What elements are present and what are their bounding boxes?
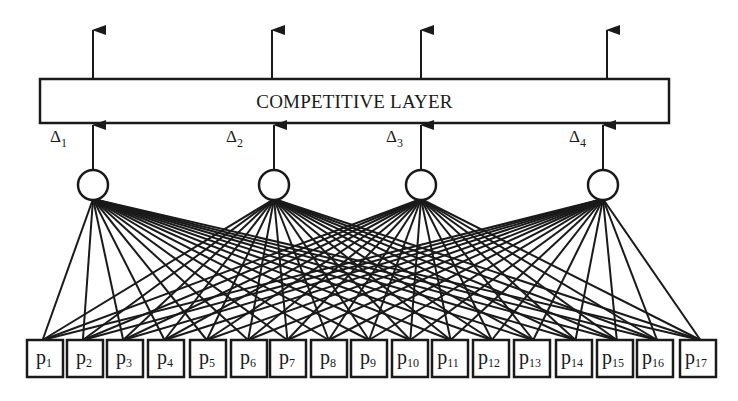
input-node-p13: p13 [514,340,550,377]
input-node-p3: p3 [107,340,143,377]
delta-label-2: Δ2 [226,127,243,150]
neuron-circle [588,170,618,200]
input-nodes: p1p2p3p4p5p6p7p8p9p10p11p12p13p14p15p16p… [27,340,716,377]
input-node-p11: p11 [432,340,468,377]
delta-label-4: Δ4 [569,127,586,150]
input-node-p12: p12 [473,340,509,377]
input-node-p9: p9 [351,340,387,377]
input-node-p15: p15 [597,340,633,377]
delta-label-1: Δ1 [50,127,67,150]
input-node-p7: p7 [270,340,306,377]
hidden-node-3: Δ3 [386,125,436,200]
input-node-p2: p2 [67,340,103,377]
competitive-layer: COMPETITIVE LAYER [40,79,669,123]
input-node-p8: p8 [311,340,347,377]
connection-n2-p7 [274,199,287,340]
input-node-p16: p16 [637,340,673,377]
neuron-circle [259,170,289,200]
neuron-circle [406,170,436,200]
input-node-p1: p1 [27,340,63,377]
input-node-p6: p6 [231,340,267,377]
connection-n1-p1 [43,199,93,340]
hidden-node-4: Δ4 [569,125,618,200]
hidden-nodes: Δ1Δ2Δ3Δ4 [50,125,618,200]
connection-n4-p17 [603,199,700,340]
competitive-network-diagram: COMPETITIVE LAYER Δ1Δ2Δ3Δ4 p1p2p3p4p5p6p… [0,0,738,401]
competitive-layer-label: COMPETITIVE LAYER [256,91,453,112]
hidden-node-1: Δ1 [50,125,108,200]
input-node-p5: p5 [190,340,226,377]
input-node-p10: p10 [392,340,428,377]
input-node-p14: p14 [556,340,592,377]
output-arrows [93,30,607,79]
connection-n3-p10 [410,199,421,340]
input-node-p4: p4 [148,340,184,377]
input-node-p17: p17 [680,340,716,377]
delta-label-3: Δ3 [386,127,403,150]
neuron-circle [78,170,108,200]
hidden-node-2: Δ2 [226,125,289,200]
connection-lines [43,199,701,340]
